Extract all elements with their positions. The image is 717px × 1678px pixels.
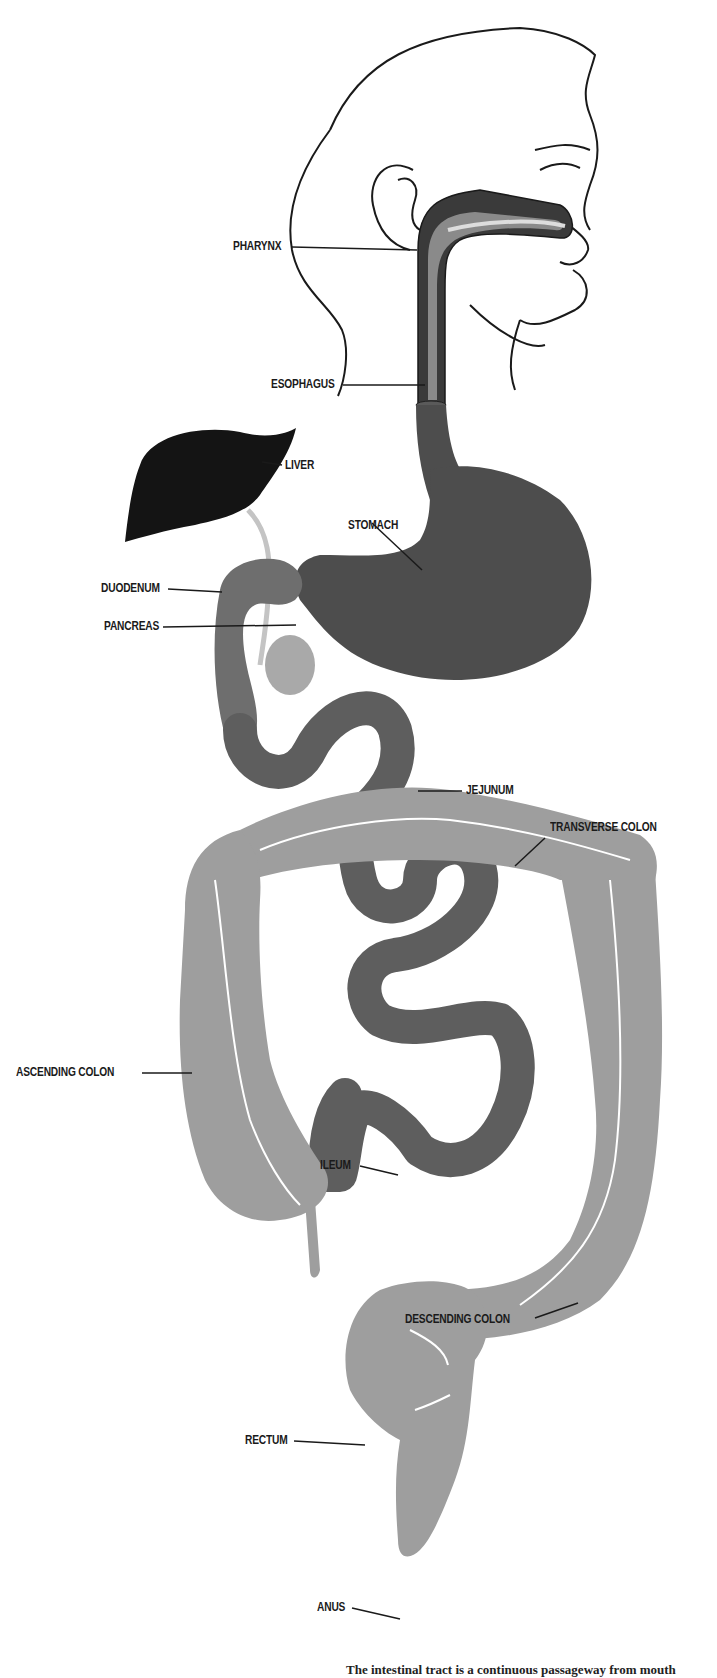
figure-caption: The intestinal tract is a continuous pas… [346, 1662, 676, 1678]
pharynx-esophagus [416, 190, 572, 409]
label-ileum: ILEUM [320, 1158, 351, 1172]
stomach [295, 466, 591, 680]
label-esophagus: ESOPHAGUS [271, 377, 335, 391]
label-anus: ANUS [317, 1600, 345, 1614]
label-jejunum: JEJUNUM [466, 783, 514, 797]
liver [125, 428, 296, 542]
label-pancreas: PANCREAS [104, 619, 159, 633]
label-descending-colon: DESCENDING COLON [405, 1312, 510, 1326]
label-stomach: STOMACH [348, 518, 398, 532]
label-duodenum: DUODENUM [101, 581, 160, 595]
label-transverse-colon: TRANSVERSE COLON [550, 820, 657, 834]
label-ascending-colon: ASCENDING COLON [16, 1065, 114, 1079]
label-pharynx: PHARYNX [233, 239, 281, 253]
pancreas [265, 635, 315, 695]
label-rectum: RECTUM [245, 1433, 288, 1447]
label-liver: LIVER [285, 458, 314, 472]
